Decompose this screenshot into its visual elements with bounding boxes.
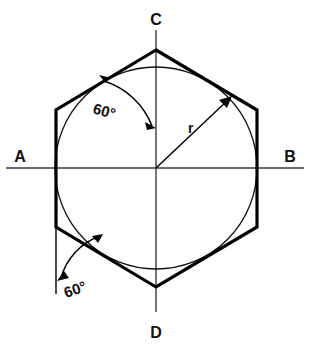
geometry-figure: 60° r 60° A B C D [0,0,310,350]
upper-angle-arrow-start [99,75,111,81]
lower-angle-label: 60° [61,277,88,300]
vertex-label-b: B [284,148,296,165]
lower-angle-arrow-start [57,271,69,281]
hexagon-circle-diagram: 60° r 60° A B C D [0,0,310,350]
vertex-label-d: D [150,324,162,341]
vertex-label-c: C [150,11,162,28]
radius-label: r [188,120,194,136]
upper-angle-label: 60° [91,100,117,123]
vertex-label-a: A [14,148,26,165]
